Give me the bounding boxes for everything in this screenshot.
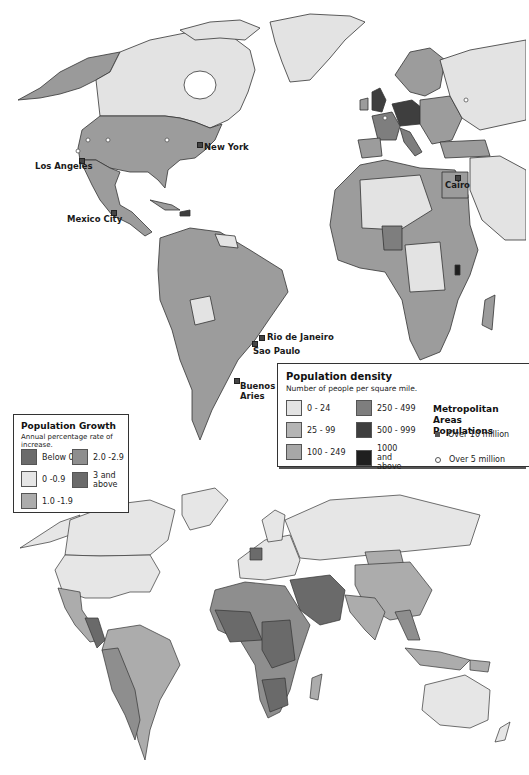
region-west-africa-growth — [215, 610, 262, 642]
legend-metro-label: Over 5 million — [449, 455, 505, 464]
region-cuba — [150, 200, 180, 210]
swatch-growth-0-0-9 — [21, 471, 37, 487]
region-png-growth — [470, 660, 490, 672]
legend-growth-item: 1.0 -1.9 — [21, 493, 73, 509]
region-scandinavia — [395, 48, 445, 96]
region-india-growth — [345, 595, 385, 640]
legend-population-density: Population density Number of people per … — [277, 363, 529, 467]
region-china-growth — [355, 562, 432, 620]
swatch-label: 250 - 499 — [377, 404, 416, 413]
region-iberia — [358, 138, 382, 158]
legend-density-title: Population density — [286, 371, 417, 382]
metro-circle-icon — [435, 457, 441, 463]
swatch-label: 2.0 -2.9 — [93, 453, 124, 462]
legend-density-item: 100 - 249 — [286, 444, 346, 460]
swatch-density-100-249 — [286, 444, 302, 460]
legend-metro-item: Over 10 million — [435, 430, 509, 439]
legend-density-item: 1000 and above — [356, 444, 411, 471]
region-andes-growth — [102, 648, 140, 740]
legend-growth-item: Below 0 — [21, 449, 74, 465]
region-madagascar-growth — [310, 674, 322, 700]
region-mexico-growth — [58, 588, 100, 642]
region-madagascar — [482, 295, 495, 330]
legend-density-item: 25 - 99 — [286, 422, 335, 438]
region-middle-east — [470, 156, 526, 240]
city-label-cairo: Cairo — [445, 180, 470, 190]
region-australia-growth — [422, 675, 490, 728]
city-label-buenos-aries-text: Buenos Aries — [240, 381, 274, 401]
swatch-label: Below 0 — [42, 453, 74, 462]
city-label-mexico-city: Mexico City — [67, 214, 122, 224]
swatch-label: 0 -0.9 — [42, 475, 65, 484]
legend-growth-subtitle: Annual percentage rate of increase. — [21, 433, 128, 449]
region-usa-growth — [55, 555, 160, 598]
region-greenland — [270, 14, 365, 82]
swatch-density-0-24 — [286, 400, 302, 416]
region-ireland — [360, 98, 368, 110]
swatch-label: 0 - 24 — [307, 404, 330, 413]
city-marker-rio-de-janeiro — [259, 335, 265, 341]
swatch-density-500-999 — [356, 422, 372, 438]
region-central-africa-growth — [262, 620, 295, 668]
metro-circle — [464, 98, 468, 102]
region-bolivia — [190, 296, 215, 325]
legend-density-item: 250 - 499 — [356, 400, 416, 416]
swatch-growth-2-0-2-9 — [72, 449, 88, 465]
region-southern-africa-growth — [262, 678, 288, 712]
region-indonesia-growth — [405, 648, 470, 670]
swatch-label: 100 - 249 — [307, 448, 346, 457]
city-label-rio-de-janeiro: Rio de Janeiro — [267, 332, 334, 342]
region-africa-growth — [210, 582, 310, 718]
city-label-buenos-aries: Buenos Aries — [240, 381, 274, 401]
swatch-density-250-499 — [356, 400, 372, 416]
region-turkey — [440, 140, 490, 158]
region-greenland-growth — [182, 488, 228, 530]
region-rwanda — [455, 265, 460, 275]
legend-density-item: 0 - 24 — [286, 400, 330, 416]
region-nigeria — [382, 226, 402, 250]
legend-growth-item: 0 -0.9 — [21, 471, 65, 487]
metro-circle — [76, 149, 80, 153]
city-marker-new-york — [197, 142, 203, 148]
swatch-density-25-99 — [286, 422, 302, 438]
metro-square-icon — [435, 432, 440, 437]
swatch-label: 3 and above — [93, 471, 121, 489]
region-haiti — [180, 210, 190, 216]
region-germany-growth — [250, 548, 262, 560]
region-new-zealand-growth — [495, 722, 510, 742]
city-label-sao-paulo: Sao Paulo — [253, 346, 300, 356]
metro-circle — [106, 138, 110, 142]
swatch-growth-3-above — [72, 472, 88, 488]
legend-metro-title-line1: Metropolitan Areas — [433, 404, 529, 426]
region-russia-growth — [285, 495, 480, 560]
region-uk — [372, 88, 386, 112]
region-italy — [400, 128, 422, 156]
swatch-growth-1-0-1-9 — [21, 493, 37, 509]
region-canada — [96, 32, 255, 128]
region-alaska-growth — [20, 515, 80, 548]
region-central-africa-light — [405, 242, 445, 292]
city-label-new-york: New York — [204, 142, 249, 152]
region-europe-growth — [238, 535, 300, 580]
legend-population-growth: Population Growth Annual percentage rate… — [13, 414, 129, 513]
region-se-asia-growth — [395, 610, 420, 640]
region-scandinavia-growth — [262, 510, 285, 542]
swatch-growth-below-0 — [21, 449, 37, 465]
region-south-america-growth — [102, 625, 180, 760]
region-arctic-islands — [180, 20, 260, 40]
legend-metro-label: Over 10 million — [448, 430, 509, 439]
metro-circle — [165, 138, 169, 142]
region-mongolia-growth — [365, 550, 405, 570]
metro-circle — [86, 138, 90, 142]
city-label-los-angeles: Los Angeles — [35, 161, 93, 171]
legend-growth-title: Population Growth — [21, 421, 128, 431]
metro-circle — [383, 116, 387, 120]
region-central-america-growth — [85, 618, 105, 648]
swatch-label: 25 - 99 — [307, 426, 335, 435]
swatch-label: 1000 and above — [377, 444, 411, 471]
legend-metro-item: Over 5 million — [435, 455, 505, 464]
legend-growth-item: 3 and above — [72, 471, 121, 489]
swatch-label: 1.0 -1.9 — [42, 497, 73, 506]
legend-density-subtitle: Number of people per square mile. — [286, 384, 417, 393]
swatch-density-1000-above — [356, 450, 372, 466]
